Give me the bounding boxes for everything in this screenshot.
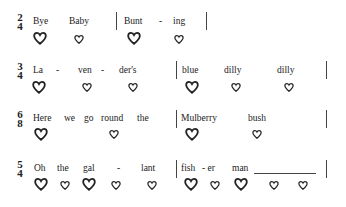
lyric: Mulberry xyxy=(181,113,217,123)
bar-line xyxy=(326,110,327,128)
lyric: dilly xyxy=(277,65,294,75)
lyric: round xyxy=(101,113,123,123)
bar-line xyxy=(176,160,177,178)
lyric: - xyxy=(101,65,104,75)
small-heart-icon xyxy=(60,181,70,190)
small-heart-icon xyxy=(82,83,92,92)
lyric: Baby xyxy=(69,16,89,26)
time-signature-bottom: 4 xyxy=(14,71,26,80)
lyric: gal xyxy=(83,163,95,173)
time-signature: 2 4 xyxy=(14,13,26,31)
rhythm-row-2: 3 4 La - ven - der's blue dilly dilly xyxy=(0,55,346,105)
rhythm-row-1: 2 4 Bye Baby Bunt - ing xyxy=(0,0,346,50)
large-heart-icon xyxy=(34,178,48,191)
large-heart-icon xyxy=(82,178,96,191)
large-heart-icon xyxy=(234,178,248,191)
rhythm-row-3: 6 8 Here we go round the Mulberry bush xyxy=(0,100,346,150)
lyric: man xyxy=(232,163,248,173)
large-heart-icon xyxy=(33,32,47,45)
small-heart-icon xyxy=(174,35,184,44)
melisma-extender-line xyxy=(254,173,316,174)
lyric: ing xyxy=(173,16,185,26)
large-heart-icon xyxy=(184,178,198,191)
lyric: we xyxy=(64,113,75,123)
small-heart-icon xyxy=(298,181,308,190)
small-heart-icon xyxy=(284,83,294,92)
small-heart-icon xyxy=(231,83,241,92)
lyric: Bye xyxy=(33,16,48,26)
lyric: - er xyxy=(202,163,215,173)
lyric: fish xyxy=(181,163,195,173)
lyric: lant xyxy=(141,163,155,173)
large-heart-icon xyxy=(185,81,199,94)
small-heart-icon xyxy=(269,181,279,190)
small-heart-icon xyxy=(128,83,138,92)
large-heart-icon xyxy=(127,32,141,45)
small-heart-icon xyxy=(147,181,157,190)
lyric: Here xyxy=(33,113,51,123)
lyric: blue xyxy=(182,65,198,75)
rhythm-row-4: 5 4 Oh the gal - lant fish - er man xyxy=(0,150,346,200)
bar-line xyxy=(206,12,207,30)
lyric: the xyxy=(57,163,69,173)
time-signature-bottom: 8 xyxy=(14,119,26,128)
time-signature-bottom: 4 xyxy=(14,169,26,178)
small-heart-icon xyxy=(210,181,220,190)
lyric: ven xyxy=(78,65,92,75)
bar-line xyxy=(116,12,117,30)
time-signature: 6 8 xyxy=(14,110,26,128)
lyric: La xyxy=(33,65,43,75)
time-signature: 3 4 xyxy=(14,62,26,80)
small-heart-icon xyxy=(252,130,262,139)
small-heart-icon xyxy=(74,35,84,44)
lyric: - xyxy=(159,16,162,26)
small-heart-icon xyxy=(109,130,119,139)
bar-line xyxy=(326,160,327,178)
lyric: - xyxy=(117,163,120,173)
large-heart-icon xyxy=(32,81,46,94)
lyric: the xyxy=(137,113,149,123)
time-signature: 5 4 xyxy=(14,160,26,178)
bar-line xyxy=(326,61,327,79)
lyric: - xyxy=(56,65,59,75)
large-heart-icon xyxy=(185,128,199,141)
lyric: Bunt xyxy=(124,16,142,26)
lyric: bush xyxy=(248,113,266,123)
lyric: Oh xyxy=(34,163,46,173)
lyric: dilly xyxy=(224,65,241,75)
large-heart-icon xyxy=(34,128,48,141)
lyric: go xyxy=(84,113,94,123)
bar-line xyxy=(176,61,177,79)
lyric: der's xyxy=(119,65,137,75)
time-signature-bottom: 4 xyxy=(14,22,26,31)
small-heart-icon xyxy=(111,181,121,190)
bar-line xyxy=(176,110,177,128)
